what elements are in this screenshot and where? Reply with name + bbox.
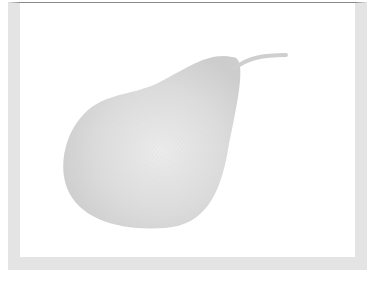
pear-body [63, 56, 240, 229]
pear-stem [235, 55, 286, 68]
pear-illustration [0, 0, 375, 281]
